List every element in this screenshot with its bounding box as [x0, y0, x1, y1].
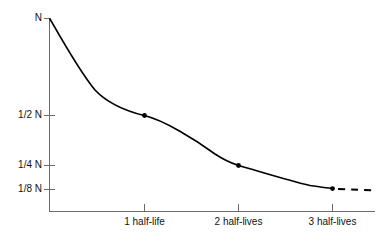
x-tick-label-3-half-lives: 3 half-lives: [282, 217, 383, 227]
data-point-marker-1-half-life: [142, 113, 147, 118]
data-point-marker-3-half-lives: [330, 186, 335, 191]
decay-curve-dashed-extrapolation: [338, 189, 376, 191]
x-tick-label-1-half-life: 1 half-life: [94, 217, 195, 227]
data-point-marker-2-half-lives: [236, 163, 241, 168]
y-tick-label-eighth-n: 1/8 N: [0, 184, 42, 194]
chart-plot-area: [0, 0, 387, 243]
y-tick-label-quarter-n: 1/4 N: [0, 160, 42, 170]
half-life-decay-chart: N 1/2 N 1/4 N 1/8 N 1 half-life 2 half-l…: [0, 0, 387, 243]
y-tick-label-half-n: 1/2 N: [0, 110, 42, 120]
y-tick-label-n: N: [0, 13, 42, 23]
decay-curve-solid: [50, 19, 333, 189]
x-tick-label-2-half-lives: 2 half-lives: [188, 217, 289, 227]
